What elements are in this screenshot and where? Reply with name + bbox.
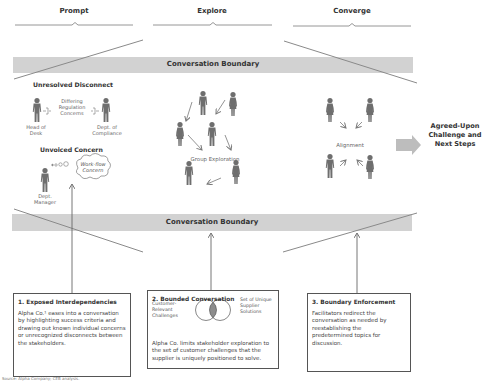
converge-person-4	[366, 155, 374, 179]
thought-bubble-dots-icon	[52, 162, 69, 167]
explore-person-4	[208, 122, 216, 146]
workflow-concern-label: Work-flow Concern	[79, 161, 107, 173]
phase-label-converge: Converge	[292, 7, 412, 15]
top-boundary-label: Conversation Boundary	[13, 60, 413, 68]
dept-manager-person-icon	[41, 168, 49, 192]
boundary-enforcement-box: 3. Boundary Enforcement Facilitators red…	[307, 293, 411, 372]
phase-bracket-explore	[153, 23, 272, 26]
venn-left-label: Customer-Relevant Challenges	[152, 301, 188, 319]
head-of-desk-person-icon	[33, 98, 41, 122]
exposed-interdependencies-box: 1. Exposed Interdependencies Alpha Co.¹ …	[13, 293, 131, 377]
box-3-title: 3. Boundary Enforcement	[312, 299, 406, 305]
phase-bracket-prompt	[15, 23, 133, 26]
group-exploration-label: Group Exploration	[180, 156, 250, 162]
box-2-body: Alpha Co. limits stakeholder exploration…	[152, 340, 274, 362]
conflict-icon-left	[43, 108, 51, 114]
source-note: Source: Alpha Company; CEB analysis.	[2, 376, 79, 381]
conflict-icon-right	[91, 108, 99, 114]
phase-label-explore: Explore	[152, 7, 272, 15]
explore-person-6	[232, 160, 240, 184]
converge-person-1	[326, 98, 334, 122]
head-of-desk-label: Head of Desk	[22, 124, 50, 136]
bottom-boundary-label: Conversation Boundary	[12, 218, 412, 226]
box-1-body: Alpha Co.¹ eases into a conversation by …	[18, 310, 126, 347]
converge-person-2	[366, 98, 374, 122]
converge-person-3	[326, 154, 334, 178]
phase-bracket-converge	[293, 24, 411, 27]
box-1-title: 1. Exposed Interdependencies	[18, 299, 126, 305]
box-3-body: Facilitators redirect the conversation a…	[312, 310, 396, 347]
alignment-label: Alignment	[320, 142, 380, 148]
explore-person-5	[185, 161, 193, 185]
outcome-arrow-icon	[396, 135, 421, 155]
phase-label-prompt: Prompt	[14, 7, 134, 15]
outcome-label: Agreed-Upon Challenge and Next Steps	[424, 122, 486, 149]
unresolved-disconnect-title: Unresolved Disconnect	[33, 81, 113, 88]
unvoiced-concern-title: Unvoiced Concern	[40, 146, 103, 153]
venn-right-label: Set of Unique Supplier Solutions	[240, 297, 274, 315]
explore-person-3	[176, 122, 184, 146]
dept-manager-label: Dept. Manager	[31, 193, 59, 205]
explore-person-1	[199, 91, 207, 115]
compliance-label: Dept. of Compliance	[88, 124, 126, 136]
differing-concerns-label: Differing Regulation Concerns	[52, 98, 92, 116]
compliance-person-icon	[102, 98, 110, 122]
explore-person-2	[229, 92, 237, 116]
